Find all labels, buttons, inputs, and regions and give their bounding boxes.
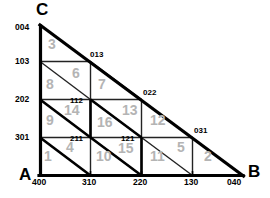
region-label-4: 4 xyxy=(66,140,74,154)
simplex-diagram: C A B 004 103 202 301 400 310 220 130 04… xyxy=(0,0,270,198)
axis-label-202: 202 xyxy=(15,95,29,104)
region-label-7: 7 xyxy=(98,77,106,91)
region-label-6: 6 xyxy=(72,66,80,80)
region-label-14: 14 xyxy=(64,103,80,117)
region-label-1: 1 xyxy=(44,149,52,163)
region-label-15: 15 xyxy=(118,141,134,155)
axis-label-310: 310 xyxy=(82,178,96,187)
region-label-13: 13 xyxy=(122,103,138,117)
grid-horizontal-lines xyxy=(40,62,193,138)
axis-label-103: 103 xyxy=(15,57,29,66)
region-label-2: 2 xyxy=(204,149,212,163)
edge-label-013: 013 xyxy=(90,51,103,59)
region-label-16: 16 xyxy=(97,115,113,129)
axis-label-040: 040 xyxy=(227,178,241,187)
region-label-3: 3 xyxy=(48,37,56,51)
region-label-8: 8 xyxy=(46,77,54,91)
region-label-9: 9 xyxy=(46,113,54,127)
vertex-label-a: A xyxy=(19,166,31,183)
axis-label-130: 130 xyxy=(184,178,198,187)
region-label-5: 5 xyxy=(177,140,185,154)
region-label-10: 10 xyxy=(96,149,112,163)
axis-label-220: 220 xyxy=(133,178,147,187)
vertex-label-c: C xyxy=(36,1,48,18)
edge-label-022: 022 xyxy=(143,89,156,97)
vertex-label-b: B xyxy=(248,163,260,180)
axis-label-301: 301 xyxy=(15,133,29,142)
region-label-12: 12 xyxy=(150,113,166,127)
diagram-canvas xyxy=(0,0,270,198)
region-label-11: 11 xyxy=(150,149,165,163)
axis-label-004: 004 xyxy=(15,23,29,32)
edge-label-031: 031 xyxy=(194,127,207,135)
axis-label-400: 400 xyxy=(32,178,46,187)
